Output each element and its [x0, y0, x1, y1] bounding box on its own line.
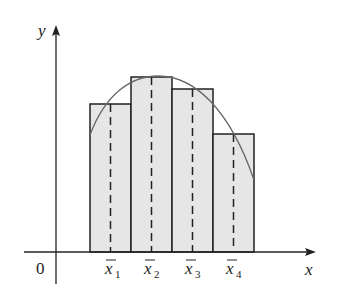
sample-label-1: x 1 [104, 259, 121, 280]
svg-text:x: x [104, 259, 113, 278]
x-axis-label: x [304, 260, 313, 279]
svg-text:4: 4 [236, 268, 242, 280]
sample-label-2: x 2 [143, 259, 160, 280]
svg-text:1: 1 [115, 268, 121, 280]
riemann-diagram: y x 0 x 1 x 2 x 3 x 4 [0, 0, 344, 299]
svg-text:2: 2 [154, 268, 160, 280]
svg-text:x: x [143, 259, 152, 278]
sample-label-3: x 3 [184, 259, 201, 280]
rectangles [90, 77, 254, 252]
origin-label: 0 [36, 259, 45, 278]
sample-label-4: x 4 [225, 259, 242, 280]
svg-text:x: x [225, 259, 234, 278]
y-axis-label: y [36, 21, 46, 40]
svg-text:x: x [184, 259, 193, 278]
rectangle-1 [90, 104, 131, 252]
sample-point-labels: x 1 x 2 x 3 x 4 [104, 259, 242, 280]
svg-text:3: 3 [195, 268, 201, 280]
